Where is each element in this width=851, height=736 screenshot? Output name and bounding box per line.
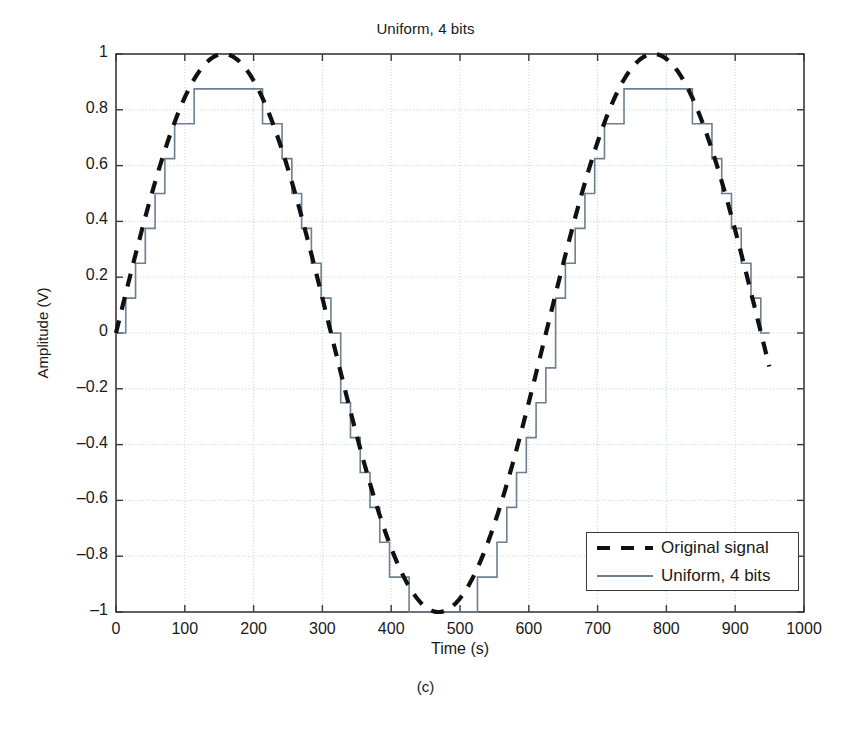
y-tick-label: 0 [58,322,108,340]
y-tick-label: 0.4 [58,210,108,228]
y-tick-label: 1 [58,43,108,61]
x-tick-label: 800 [631,620,701,638]
x-tick-label: 200 [219,620,289,638]
x-tick-label: 500 [425,620,495,638]
y-tick-label: –0.2 [58,378,108,396]
x-axis-label: Time (s) [116,640,804,658]
y-axis-label: Amplitude (V) [34,0,64,612]
x-tick-label: 600 [494,620,564,638]
x-tick-label: 400 [356,620,426,638]
y-tick-label: –1 [58,601,108,619]
y-tick-label: 0.2 [58,266,108,284]
x-tick-label: 1000 [769,620,839,638]
legend-label-quantized: Uniform, 4 bits [661,562,771,590]
y-tick-label: –0.8 [58,545,108,563]
gridlines-group [116,54,804,612]
figure-caption: (c) [0,678,851,695]
legend: Original signal Uniform, 4 bits [586,532,799,591]
legend-item-original: Original signal [587,534,800,562]
legend-swatch-dashed-icon [595,534,657,562]
x-tick-label: 0 [81,620,151,638]
figure-panel: Uniform, 4 bits –1–0.8–0.6–0.4–0.200.20.… [0,0,851,736]
legend-label-original: Original signal [661,534,769,562]
x-tick-label: 900 [700,620,770,638]
legend-swatch-solid-icon [595,562,657,590]
y-tick-label: 0.6 [58,155,108,173]
y-tick-label: –0.4 [58,434,108,452]
y-tick-label: –0.6 [58,489,108,507]
x-tick-label: 700 [563,620,633,638]
x-tick-label: 300 [287,620,357,638]
y-tick-label: 0.8 [58,99,108,117]
y-axis-label-text: Amplitude (V) [34,54,51,612]
legend-item-quantized: Uniform, 4 bits [587,562,800,590]
x-tick-label: 100 [150,620,220,638]
